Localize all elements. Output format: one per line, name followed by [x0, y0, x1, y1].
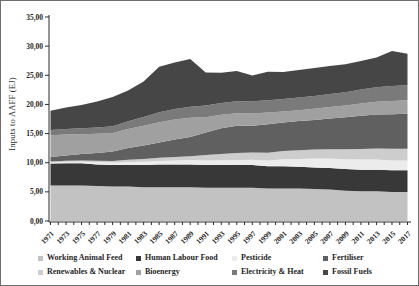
x-tick-label: 2001: [272, 229, 289, 246]
x-tick-label: 1999: [256, 229, 273, 246]
y-tick-label: 25,00: [26, 71, 43, 80]
y-tick-label: 15,00: [26, 129, 43, 138]
x-tick-label: 1985: [148, 229, 165, 246]
x-tick-label: 2005: [303, 229, 320, 246]
y-tick-label: 20,00: [26, 100, 43, 109]
x-tick-label: 1981: [117, 229, 134, 246]
y-tick-label: 0,00: [30, 217, 43, 226]
x-tick-label: 1973: [54, 229, 71, 246]
x-tick-label: 1995: [225, 229, 242, 246]
x-tick-label: 2011: [350, 229, 367, 246]
stacked-area-chart: 0,005,0010,0015,0020,0025,0030,0035,0019…: [1, 1, 419, 286]
x-tick-label: 1989: [179, 229, 196, 246]
x-tick-label: 1991: [194, 229, 211, 246]
x-tick-label: 2009: [334, 229, 351, 246]
x-tick-label: 1979: [101, 229, 118, 246]
x-tick-label: 1987: [163, 229, 180, 246]
x-tick-label: 1983: [132, 229, 149, 246]
y-tick-label: 5,00: [30, 187, 43, 196]
x-tick-label: 1993: [210, 229, 227, 246]
y-tick-label: 10,00: [26, 158, 43, 167]
x-tick-label: 2003: [287, 229, 304, 246]
x-tick-label: 2013: [365, 229, 382, 246]
y-tick-label: 35,00: [26, 13, 43, 22]
figure-frame: 0,005,0010,0015,0020,0025,0030,0035,0019…: [1, 1, 418, 285]
x-tick-label: 2007: [318, 229, 335, 246]
x-tick-label: 1971: [39, 229, 56, 246]
x-tick-label: 2015: [380, 229, 397, 246]
x-tick-label: 2017: [396, 229, 413, 246]
x-tick-label: 1975: [70, 229, 87, 246]
y-tick-label: 30,00: [26, 42, 43, 51]
x-tick-label: 1977: [86, 229, 103, 246]
y-axis-title: Inputs to AAFF (EJ): [6, 12, 18, 217]
x-tick-label: 1997: [241, 229, 258, 246]
